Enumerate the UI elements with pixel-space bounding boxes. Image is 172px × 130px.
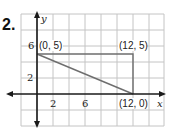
x-tick-label: 2 <box>50 98 56 109</box>
grid <box>21 14 164 126</box>
y-axis-label: y <box>40 13 47 24</box>
x-axis-right-arrow-icon <box>159 91 166 97</box>
x-axis-label: x <box>157 98 163 109</box>
y-tick-label: 2 <box>27 72 33 83</box>
point-label-12-0: (12, 0) <box>119 98 148 109</box>
x-axis-left-arrow-icon <box>6 91 13 97</box>
y-axis-down-arrow-icon <box>34 121 40 128</box>
y-tick-label: 6 <box>28 40 34 51</box>
coordinate-plane: y x 2 6 2 6 (0, 5) (12, 5) (12, 0) <box>0 0 172 130</box>
x-tick-label: 6 <box>82 98 88 109</box>
point-label-12-5: (12, 5) <box>119 40 148 51</box>
x-axis <box>6 91 166 97</box>
point-label-0-5: (0, 5) <box>39 40 62 51</box>
